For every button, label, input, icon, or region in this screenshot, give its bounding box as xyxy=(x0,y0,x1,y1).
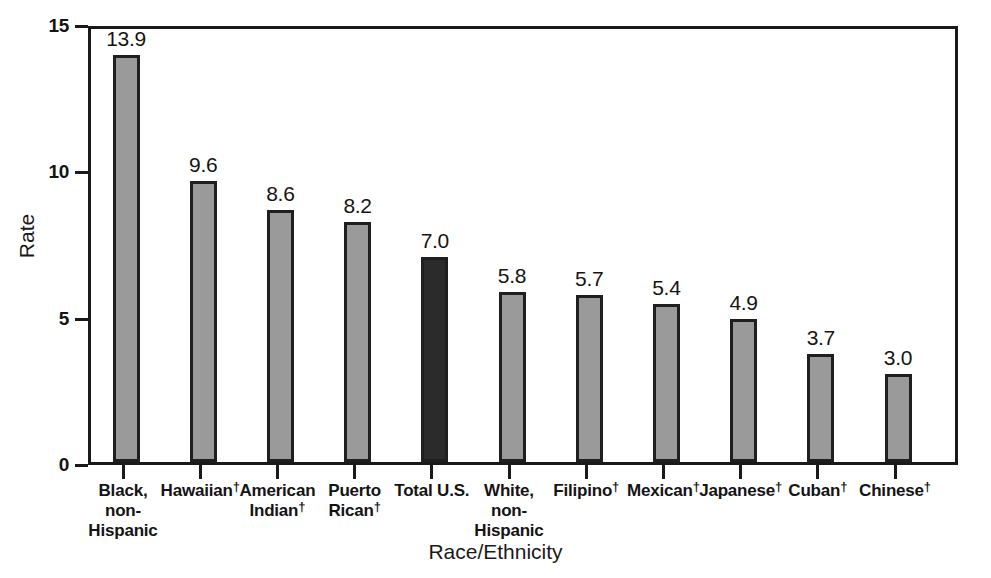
bar-filipino[interactable]: 5.7 xyxy=(576,295,603,462)
y-tick-label: 15 xyxy=(48,15,69,36)
x-tick-label-line: Rican† xyxy=(290,501,420,521)
x-tick-label-line: Chinese† xyxy=(830,481,960,501)
y-tick-mark xyxy=(75,318,88,321)
x-tick-mark xyxy=(353,465,356,479)
x-tick-mark xyxy=(739,465,742,479)
bar-cuban[interactable]: 3.7 xyxy=(807,354,834,462)
x-tick-mark xyxy=(276,465,279,479)
bar-value-label: 4.9 xyxy=(729,291,757,315)
y-tick-mark xyxy=(75,464,88,467)
dagger-footnote-marker: † xyxy=(374,499,381,514)
x-tick-label-line: non- xyxy=(444,501,574,521)
y-tick-mark xyxy=(75,171,88,174)
bar-black-non-hispanic[interactable]: 13.9 xyxy=(113,55,140,462)
y-axis-title: Rate xyxy=(15,176,39,296)
x-tick-mark xyxy=(122,465,125,479)
bar-chinese[interactable]: 3.0 xyxy=(885,374,912,462)
bar-rect xyxy=(344,222,371,462)
y-tick-mark xyxy=(75,25,88,28)
bar-value-label: 9.6 xyxy=(189,153,217,177)
bar-rect xyxy=(421,257,448,462)
x-tick-mark xyxy=(430,465,433,479)
bar-chart: Rate 051015 13.99.68.68.27.05.85.75.44.9… xyxy=(0,0,991,578)
bar-japanese[interactable]: 4.9 xyxy=(730,319,757,462)
bar-rect xyxy=(885,374,912,462)
bar-value-label: 3.7 xyxy=(807,326,835,350)
bar-rect xyxy=(113,55,140,462)
x-tick-mark xyxy=(199,465,202,479)
bar-hawaiian[interactable]: 9.6 xyxy=(190,181,217,462)
x-axis-title: Race/Ethnicity xyxy=(0,540,991,564)
bar-rect xyxy=(576,295,603,462)
bar-rect xyxy=(267,210,294,462)
x-tick-mark xyxy=(894,465,897,479)
bar-puerto-rican[interactable]: 8.2 xyxy=(344,222,371,462)
x-tick-mark xyxy=(585,465,588,479)
bar-rect xyxy=(653,304,680,462)
bar-value-label: 5.8 xyxy=(498,264,526,288)
bar-value-label: 5.4 xyxy=(652,276,680,300)
x-tick-label: Chinese† xyxy=(830,481,960,501)
x-tick-label-line: Hispanic xyxy=(444,521,574,541)
dagger-footnote-marker: † xyxy=(924,479,931,494)
bar-rect xyxy=(730,319,757,462)
plot-area: 13.99.68.68.27.05.85.75.44.93.73.0 xyxy=(88,26,958,465)
x-tick-label-line: Hispanic xyxy=(58,521,188,541)
y-tick-label: 5 xyxy=(59,308,69,329)
bar-rect xyxy=(190,181,217,462)
y-tick-label: 0 xyxy=(59,454,69,475)
x-tick-label-line: non- xyxy=(58,501,188,521)
x-tick-mark xyxy=(508,465,511,479)
bar-mexican[interactable]: 5.4 xyxy=(653,304,680,462)
bar-value-label: 3.0 xyxy=(884,346,912,370)
y-tick-label: 10 xyxy=(48,161,69,182)
x-tick-mark xyxy=(816,465,819,479)
bar-total-u-s[interactable]: 7.0 xyxy=(421,257,448,462)
bar-rect xyxy=(807,354,834,462)
bar-value-label: 13.9 xyxy=(106,27,146,51)
bar-american-indian[interactable]: 8.6 xyxy=(267,210,294,462)
bar-rect xyxy=(499,292,526,462)
x-tick-mark xyxy=(662,465,665,479)
bar-white-non-hispanic[interactable]: 5.8 xyxy=(499,292,526,462)
bar-value-label: 5.7 xyxy=(575,267,603,291)
bar-value-label: 8.6 xyxy=(266,182,294,206)
bar-value-label: 8.2 xyxy=(343,194,371,218)
bar-value-label: 7.0 xyxy=(421,229,449,253)
